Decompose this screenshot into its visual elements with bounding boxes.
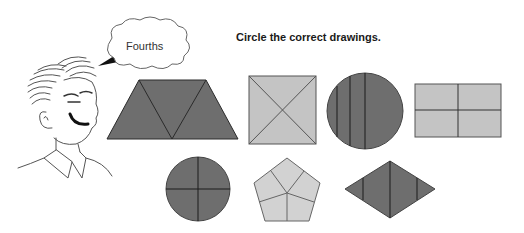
small-circle-shape[interactable] [166, 157, 230, 221]
cartoon-boy [18, 57, 112, 178]
rhombus-shape[interactable] [345, 161, 435, 218]
worksheet: Fourths Circle the correct drawings. [0, 0, 524, 233]
pentagon-shape[interactable] [254, 158, 320, 221]
instruction-title: Circle the correct drawings. [236, 31, 381, 43]
bubble-label: Fourths [126, 40, 163, 52]
trapezoid-shape[interactable] [107, 80, 238, 139]
rectangle-shape[interactable] [415, 84, 501, 137]
square-shape[interactable] [249, 76, 316, 144]
large-circle-shape[interactable] [327, 73, 403, 149]
